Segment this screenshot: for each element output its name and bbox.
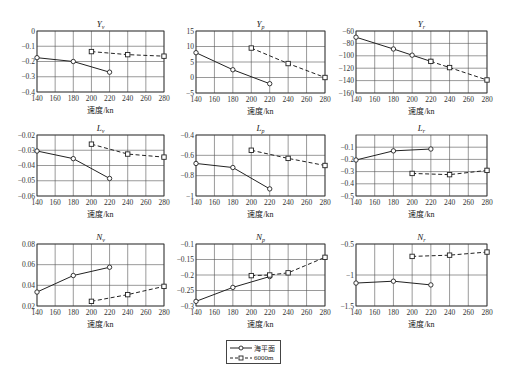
x-tick-label: 160 (209, 308, 221, 317)
subplot-title: Lr (417, 123, 426, 134)
plot-frame (356, 31, 487, 93)
x-tick-label: 160 (50, 94, 62, 103)
x-tick-label: 180 (68, 94, 80, 103)
data-point (35, 149, 39, 153)
x-tick-label: 200 (407, 95, 419, 104)
data-point (249, 46, 253, 50)
data-point (194, 299, 198, 303)
subplot-Lp: 140160180200220240260280−0.4−0.6−0.8−1Lp… (180, 123, 330, 219)
subplot-Np: 140160180200220240260280−0.1−0.15−0.2−0.… (177, 232, 331, 329)
subplot-Yr: 140160180200220240260280−60−80−100−120−1… (339, 19, 493, 116)
x-tick-label: 200 (246, 308, 258, 317)
x-tick-label: 220 (104, 198, 116, 207)
y-tick-label: −0.5 (340, 192, 354, 201)
data-point (286, 271, 290, 275)
x-tick-label: 180 (68, 308, 80, 317)
subplot-Lr: 140160180200220240260280−0.1−0.2−0.3−0.4… (340, 123, 492, 219)
y-tick-label: −0.4 (340, 179, 354, 188)
x-tick-label: 280 (319, 308, 331, 317)
x-tick-label: 180 (227, 198, 239, 207)
subplot-title: Yp (256, 19, 264, 30)
x-tick-label: 220 (104, 308, 116, 317)
x-tick-label: 260 (301, 198, 313, 207)
y-tick-label: −0.15 (177, 255, 195, 264)
x-tick-label: 260 (140, 94, 152, 103)
data-point (323, 255, 327, 259)
x-tick-label: 240 (122, 308, 134, 317)
x-axis-label: 速度/kn (247, 209, 273, 219)
data-point (89, 299, 93, 303)
data-point (323, 75, 327, 79)
x-tick-label: 180 (227, 95, 239, 104)
data-point (268, 82, 272, 86)
y-tick-label: −160 (339, 89, 355, 98)
series-6000m (431, 61, 487, 80)
subplot-Lv: 140160180200220240260280−0.02−0.03−0.04−… (18, 123, 170, 219)
data-point (429, 283, 433, 287)
data-point (71, 59, 75, 63)
data-point (447, 172, 451, 176)
data-point (410, 53, 414, 57)
x-axis-label: 速度/kn (87, 105, 113, 115)
legend-entry-6000m: 6000m (230, 353, 273, 363)
x-tick-label: 160 (369, 198, 381, 207)
y-tick-label: 0 (190, 73, 194, 82)
data-point (194, 51, 198, 55)
data-point (231, 285, 235, 289)
data-point (162, 155, 166, 159)
y-tick-label: 0.02 (22, 302, 35, 311)
legend-entry-sea-level: 海平面 (230, 343, 275, 353)
data-point (89, 142, 93, 146)
y-tick-label: −0.25 (177, 286, 195, 295)
x-tick-label: 240 (122, 198, 134, 207)
x-tick-label: 260 (301, 308, 313, 317)
x-tick-label: 260 (463, 198, 475, 207)
subplot-title: Yv (97, 19, 105, 30)
x-tick-label: 280 (158, 198, 170, 207)
y-tick-label: −0.06 (18, 192, 36, 201)
data-point (485, 168, 489, 172)
y-tick-label: −0.2 (340, 155, 354, 164)
x-tick-label: 200 (86, 94, 98, 103)
data-point (447, 253, 451, 257)
x-tick-label: 160 (50, 198, 62, 207)
y-tick-label: −1 (346, 271, 354, 280)
y-tick-label: −120 (339, 64, 355, 73)
y-tick-label: 0.08 (22, 240, 35, 249)
legend-label: 6000m (254, 354, 273, 362)
data-point (485, 78, 489, 82)
data-point (391, 47, 395, 51)
data-point (194, 161, 198, 165)
data-point (162, 54, 166, 58)
x-tick-label: 240 (283, 308, 295, 317)
y-tick-label: 15 (187, 27, 195, 36)
data-point (429, 147, 433, 151)
data-point (391, 149, 395, 153)
x-tick-label: 180 (227, 308, 239, 317)
subplot-title: Lv (96, 123, 105, 134)
y-tick-label: −0.2 (21, 57, 35, 66)
x-tick-label: 280 (481, 198, 493, 207)
subplot-title: Np (255, 232, 265, 243)
x-axis-label: 速度/kn (87, 209, 113, 219)
x-tick-label: 240 (444, 95, 456, 104)
y-tick-label: −80 (342, 39, 354, 48)
data-point (107, 265, 111, 269)
x-tick-label: 260 (463, 95, 475, 104)
data-point (354, 158, 358, 162)
x-axis-label: 速度/kn (87, 319, 113, 329)
x-tick-label: 260 (463, 308, 475, 317)
x-tick-label: 220 (104, 94, 116, 103)
y-tick-label: −0.1 (340, 143, 354, 152)
x-tick-label: 200 (407, 198, 419, 207)
y-tick-label: 5 (190, 58, 194, 67)
y-tick-label: −0.4 (180, 131, 194, 140)
subplot-Nr: 140160180200220240260280−0.5−1−1.5Nr速度/k… (340, 232, 492, 329)
x-tick-label: 220 (264, 95, 276, 104)
dashed-line-square-marker-icon (230, 354, 252, 362)
x-axis-label: 速度/kn (408, 106, 434, 116)
y-tick-label: −0.1 (180, 240, 194, 249)
data-point (429, 59, 433, 63)
data-point (485, 250, 489, 254)
x-axis-label: 速度/kn (247, 106, 273, 116)
